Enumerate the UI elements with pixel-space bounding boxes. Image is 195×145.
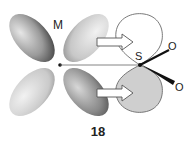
metal-label: M (53, 18, 63, 32)
figure-number: 18 (91, 124, 105, 139)
oxygen-label-lower: O (175, 81, 184, 93)
lobe-lower-left (1, 60, 64, 125)
sulfur-label: S (135, 50, 142, 62)
lobe-upper-left (1, 6, 64, 71)
orbital-diagram: M S O O 18 (0, 0, 195, 145)
sulfur-atom (138, 63, 142, 67)
oxygen-label-upper: O (168, 40, 177, 52)
